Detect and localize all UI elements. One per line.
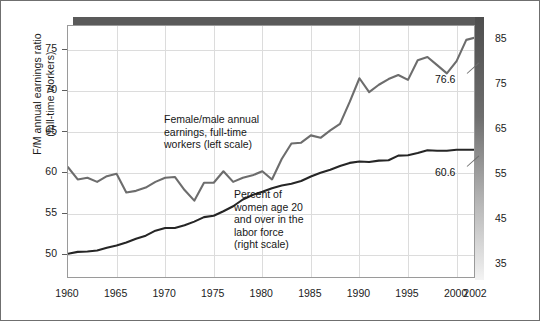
x-tick-label: 1975 (191, 287, 235, 299)
left-tick-label: 65 (27, 125, 57, 136)
plot-shadow-right (475, 17, 484, 280)
chart-figure: F/M annual earnings ratio (full-time wor… (0, 0, 540, 321)
left-tick-mark (62, 172, 67, 173)
left-tick-mark (62, 49, 67, 50)
x-tick-label: 1965 (94, 287, 138, 299)
line-earnings-ratio (68, 37, 474, 200)
right-tick-label: 65 (495, 123, 531, 134)
right-tick-label: 85 (495, 33, 531, 44)
left-tick-mark (62, 131, 67, 132)
left-tick-label: 70 (27, 84, 57, 95)
left-tick-mark (62, 254, 67, 255)
plot-inner: Female/male annual earnings, full-time w… (68, 26, 474, 277)
left-tick-label: 75 (27, 43, 57, 54)
left-tick-mark (62, 213, 67, 214)
end-label-earnings-ratio: 76.6 (435, 74, 455, 85)
x-tick-label: 1985 (288, 287, 332, 299)
annotation-labor-force: Percent of women age 20 and over in the … (234, 188, 303, 251)
x-tick-label: 1970 (142, 287, 186, 299)
end-label-labor-force: 60.6 (435, 167, 455, 178)
right-tick-label: 75 (495, 78, 531, 89)
right-tick-label: 35 (495, 258, 531, 269)
left-tick-label: 55 (27, 207, 57, 218)
x-tick-label: 1995 (385, 287, 429, 299)
right-tick-label: 55 (495, 168, 531, 179)
x-tick-label: 1990 (336, 287, 380, 299)
annotation-earnings-ratio: Female/male annual earnings, full-time w… (164, 113, 259, 151)
left-tick-label: 60 (27, 166, 57, 177)
left-tick-label: 50 (27, 248, 57, 259)
x-tick-label: 1960 (45, 287, 89, 299)
left-tick-mark (62, 90, 67, 91)
x-tick-label: 2002 (453, 287, 497, 299)
x-tick-label: 1980 (239, 287, 283, 299)
plot-area: Female/male annual earnings, full-time w… (67, 25, 475, 278)
right-tick-label: 45 (495, 213, 531, 224)
